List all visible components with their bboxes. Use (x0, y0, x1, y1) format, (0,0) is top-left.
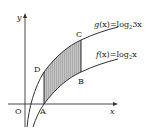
curve-g-label: g(x)=log23x (94, 20, 142, 30)
y-axis-label: y (16, 13, 22, 22)
shaded-region-abcd (44, 40, 81, 104)
curve-f-label: f(x)=log2x (95, 50, 137, 60)
x-axis-label: x (110, 107, 115, 116)
y-axis-arrow-icon (23, 13, 27, 18)
point-c-label: C (76, 30, 82, 39)
point-b-label: B (78, 77, 84, 86)
x-axis-arrow-icon (113, 102, 118, 106)
log-graph-diagram: y x O A B C D g(x)=log23x f(x)=log2x (0, 0, 164, 135)
point-d-label: D (34, 65, 40, 74)
point-a-label: A (39, 107, 46, 116)
origin-label: O (15, 107, 22, 116)
